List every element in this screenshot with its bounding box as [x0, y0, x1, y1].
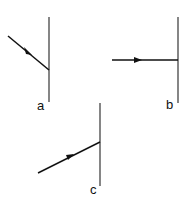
panel-b — [112, 17, 178, 103]
arrow-icon-b — [134, 57, 142, 63]
panel-a — [8, 17, 49, 102]
diagram-canvas — [0, 0, 191, 206]
ray-diagram: a b c — [0, 0, 191, 206]
panel-c — [38, 103, 100, 186]
label-c: c — [90, 183, 97, 196]
label-a: a — [37, 99, 44, 112]
label-b: b — [166, 98, 173, 111]
arrow-icon-a — [24, 47, 32, 55]
